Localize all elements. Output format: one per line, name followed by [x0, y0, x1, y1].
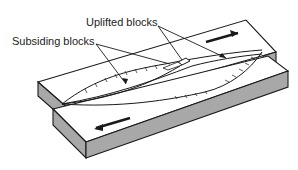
- label-uplifted-blocks: Uplifted blocks: [86, 16, 158, 28]
- fault-diagram: Uplifted blocks Subsiding blocks: [0, 0, 298, 170]
- label-subsiding-blocks: Subsiding blocks: [12, 35, 95, 47]
